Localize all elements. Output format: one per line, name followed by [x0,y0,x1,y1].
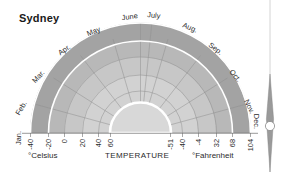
month-label-jan: Jan. [14,131,23,145]
fahrenheit-axis-label: °Fahrenheit [192,151,233,160]
fahrenheit-tick-2: -4 [194,139,203,146]
celsius-tick-labels: -40 -20 0 20 40 60 [26,139,115,150]
fahrenheit-tick-4: 68 [228,139,237,147]
temperature-axis-label: TEMPERATURE [105,151,169,160]
celsius-axis-label: °Celsius [28,151,57,160]
fahrenheit-tick-0: -51 [166,139,175,150]
celsius-tick-5: 60 [106,139,115,147]
celsius-tick-3: 20 [78,139,87,147]
celsius-tick-4: 40 [94,139,103,147]
needle-pointer-icon [259,0,281,172]
radial-chart-plot: Jan. Feb. Mar. Apr. May June July Aug. S… [0,0,281,172]
fahrenheit-tick-3: 32 [212,139,221,147]
celsius-tick-0: -40 [26,139,35,150]
fahrenheit-tick-5: 104 [246,139,255,151]
month-label-july: July [147,10,161,20]
radial-temperature-chart: Sydney [0,0,281,172]
celsius-tick-1: -20 [44,139,53,150]
celsius-tick-2: 0 [60,139,69,143]
fahrenheit-tick-1: -40 [178,139,187,150]
fahrenheit-tick-labels: -51 -40 -4 32 68 104 [166,139,255,151]
chart-bands-group [22,15,258,133]
needle-hub [265,121,274,130]
